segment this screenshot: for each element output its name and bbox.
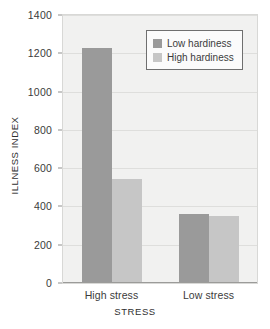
y-tick-label: 1200	[28, 47, 52, 59]
x-axis-line	[63, 282, 257, 283]
y-tick-mark	[58, 168, 62, 169]
y-tick-label: 800	[34, 124, 52, 136]
legend-swatch-icon	[153, 39, 162, 48]
x-category-label: High stress	[85, 289, 139, 301]
legend-label: Low hardiness	[167, 38, 231, 49]
y-tick-mark	[58, 91, 62, 92]
legend: Low hardinessHigh hardiness	[146, 30, 243, 70]
bar	[179, 214, 209, 282]
y-tick-mark	[58, 283, 62, 284]
y-tick-label: 600	[34, 162, 52, 174]
legend-swatch-icon	[153, 53, 162, 62]
y-tick-label: 1400	[28, 9, 52, 21]
y-tick-mark	[58, 53, 62, 54]
bar-chart: 0200400600800100012001400 ILLNESS INDEX …	[0, 0, 270, 329]
y-tick-mark	[58, 15, 62, 16]
x-category-label: Low stress	[183, 289, 234, 301]
y-tick-mark	[58, 129, 62, 130]
bar	[112, 179, 142, 282]
y-tick-mark	[58, 206, 62, 207]
y-tick-label: 400	[34, 200, 52, 212]
gridline	[63, 15, 257, 16]
y-tick-label: 200	[34, 239, 52, 251]
y-axis-title: ILLNESS INDEX	[9, 91, 20, 221]
legend-item: High hardiness	[153, 50, 234, 64]
x-axis-title: STRESS	[0, 306, 270, 317]
y-tick-label: 0	[46, 277, 52, 289]
legend-label: High hardiness	[167, 52, 234, 63]
legend-item: Low hardiness	[153, 36, 234, 50]
y-tick-label: 1000	[28, 86, 52, 98]
bar	[82, 48, 112, 282]
y-tick-mark	[58, 244, 62, 245]
bar	[209, 216, 239, 282]
